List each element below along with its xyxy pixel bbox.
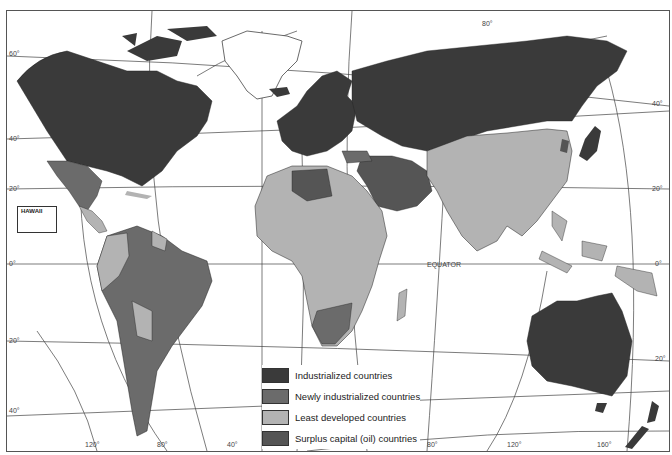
lon-label-40w: 40° [227, 441, 238, 448]
lat-label-40-right: 40° [652, 100, 663, 107]
lat-label-60: 60° [9, 50, 20, 57]
north-america [17, 51, 212, 186]
legend-label: Industrialized countries [295, 370, 392, 381]
asia [427, 129, 572, 251]
lat-label-20: 20° [9, 185, 20, 192]
australia [527, 293, 632, 396]
lon-label-120w: 120° [85, 441, 100, 448]
legend-label: Least developed countries [295, 412, 406, 423]
hawaii-inset: HAWAII [17, 206, 57, 233]
japan [579, 126, 601, 161]
legend-item-least-developed: Least developed countries [262, 407, 420, 428]
swatch-newly-industrialized [262, 389, 289, 404]
hawaii-label: HAWAII [21, 208, 42, 214]
lat-label-0: 0° [9, 260, 16, 267]
lat-label-s20: 20° [9, 337, 20, 344]
lat-label-40: 40° [9, 135, 20, 142]
lat-label-20-right-s: 20° [655, 355, 666, 362]
swatch-least-developed [262, 410, 289, 425]
lon-label-120e: 120° [507, 441, 522, 448]
lon-label-160e: 160° [597, 441, 612, 448]
legend-item-surplus-oil: Surplus capital (oil) countries [262, 428, 420, 449]
lon-label-80e: 80° [427, 441, 438, 448]
legend-label: Surplus capital (oil) countries [295, 433, 417, 444]
mexico [47, 161, 102, 211]
lon-label-80w: 80° [157, 441, 168, 448]
lat-label-0-right: 0° [655, 260, 662, 267]
legend-item-industrialized: Industrialized countries [262, 365, 420, 386]
legend-item-newly-industrialized: Newly industrialized countries [262, 386, 420, 407]
lat-label-20-right: 20° [652, 185, 663, 192]
greenland [222, 31, 302, 99]
swatch-industrialized [262, 368, 289, 383]
legend-label: Newly industrialized countries [295, 391, 420, 402]
europe [277, 71, 357, 156]
lat-label-80-right: 80° [482, 20, 493, 27]
ussr [352, 36, 627, 151]
equator-label: EQUATOR [427, 261, 461, 269]
swatch-surplus-oil [262, 431, 289, 446]
lat-label-s40: 40° [9, 407, 20, 414]
legend: Industrialized countries Newly industria… [262, 365, 420, 449]
